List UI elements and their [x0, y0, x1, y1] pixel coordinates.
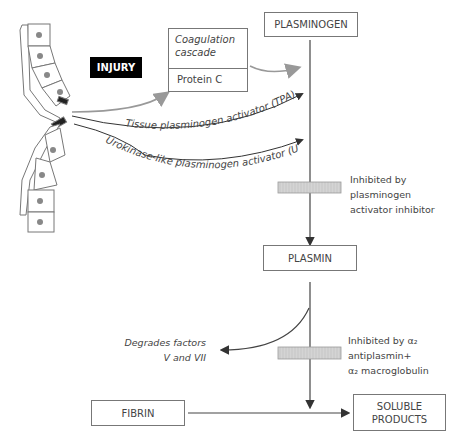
soluble-products-line1: SOLUBLE: [377, 400, 422, 413]
protein-c-label: Protein C: [169, 69, 247, 92]
degrades-factors-arrow: [222, 308, 309, 350]
pai-inhibitor-bar: [278, 182, 341, 193]
coagulation-cascade-label: Coagulation cascade: [169, 29, 247, 69]
fibrin-box: FIBRIN: [91, 400, 185, 426]
pai-line3: activator inhibitor: [350, 202, 435, 217]
plasmin-box: PLASMIN: [263, 245, 357, 271]
a2-inhibitor-bar: [278, 347, 341, 359]
epithelium-upper-icon: [20, 24, 70, 123]
tpa-label: Tissue plasminogen activator (TPA): [125, 88, 297, 131]
injury-to-coagulation-arrow: [72, 94, 166, 112]
degrades-annotation: Degrades factors V and VII: [110, 335, 206, 365]
plasminogen-label: PLASMINOGEN: [274, 19, 348, 30]
a2-line3: α₂ macroglobulin: [348, 363, 429, 378]
plasmin-label: PLASMIN: [288, 253, 332, 264]
soluble-products-line2: PRODUCTS: [372, 413, 427, 426]
pai-annotation: Inhibited by plasminogen activator inhib…: [350, 172, 435, 217]
pai-line1: Inhibited by: [350, 172, 435, 187]
pai-line2: plasminogen: [350, 187, 435, 202]
coagulation-box: Coagulation cascade Protein C: [168, 28, 248, 92]
a2-annotation: Inhibited by α₂ antiplasmin+ α₂ macroglo…: [348, 333, 429, 378]
degrades-line2: V and VII: [110, 350, 206, 365]
fibrin-label: FIBRIN: [122, 408, 155, 419]
epithelium-lower-icon: [20, 117, 67, 232]
injury-label: INJURY: [90, 57, 142, 78]
a2-line2: antiplasmin+: [348, 348, 429, 363]
plasminogen-box: PLASMINOGEN: [264, 12, 358, 37]
degrades-line1: Degrades factors: [110, 335, 206, 350]
coagulation-to-plasminogen-arrow: [250, 66, 297, 72]
soluble-products-box: SOLUBLE PRODUCTS: [353, 394, 446, 431]
svg-text:Tissue plasminogen activator (: Tissue plasminogen activator (TPA): [125, 88, 297, 131]
a2-line1: Inhibited by α₂: [348, 333, 429, 348]
